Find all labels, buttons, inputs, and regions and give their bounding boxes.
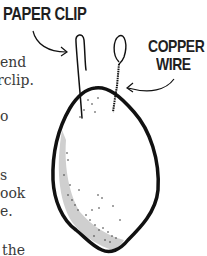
paper-clip-label: PAPER CLIP xyxy=(3,5,86,23)
paper-clip xyxy=(76,35,86,118)
body-text-fragment: the xyxy=(2,242,25,256)
body-text-fragment: o xyxy=(0,108,8,124)
copper-wire-label-line1: COPPER xyxy=(148,38,204,55)
copper-wire-arrowhead xyxy=(127,83,133,92)
lemon-outline xyxy=(53,88,158,252)
copper-wire-arrow xyxy=(128,79,174,91)
copper-wire-label-line2: WIRE xyxy=(156,56,191,73)
body-text-fragment: s xyxy=(0,167,7,183)
copper-wire-loop xyxy=(114,36,126,64)
body-text-fragment: e. xyxy=(0,203,13,219)
lemon-shading xyxy=(59,130,124,250)
paper-clip-arrow xyxy=(33,31,66,52)
body-text-fragment: rclip. xyxy=(0,72,34,88)
copper-wire-twist xyxy=(113,64,119,112)
body-text-fragment: end xyxy=(0,54,26,70)
body-text-fragment: ook xyxy=(0,185,25,201)
